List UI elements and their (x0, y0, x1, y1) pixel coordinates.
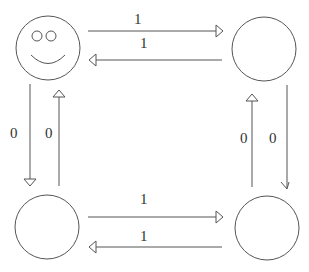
arrow-tr-to-br (281, 85, 289, 189)
arrow-bl-to-tl (53, 90, 65, 186)
arrow-tl-to-bl (24, 84, 36, 186)
label-bl-to-tl: 0 (45, 126, 53, 141)
arrow-tr-to-tl (89, 54, 222, 66)
arrow-bl-to-br (88, 211, 223, 223)
state-bottom-left (15, 195, 79, 259)
label-br-to-bl: 1 (140, 229, 148, 244)
state-bottom-right (235, 196, 299, 260)
smiley-mouth (31, 55, 65, 64)
state-top-left (16, 16, 80, 80)
arrow-tl-to-tr (88, 25, 223, 37)
label-tl-to-tr: 1 (134, 12, 142, 27)
state-top-right (232, 17, 296, 81)
arrow-br-to-tr (246, 94, 258, 187)
arrow-br-to-bl (89, 241, 222, 253)
smiley-right-eye (46, 31, 56, 41)
label-tr-to-br: 0 (269, 131, 277, 146)
label-tr-to-tl: 1 (140, 36, 148, 51)
label-bl-to-br: 1 (140, 192, 148, 207)
smiley-left-eye (32, 31, 42, 41)
label-tl-to-bl: 0 (10, 126, 18, 141)
label-br-to-tr: 0 (240, 131, 248, 146)
